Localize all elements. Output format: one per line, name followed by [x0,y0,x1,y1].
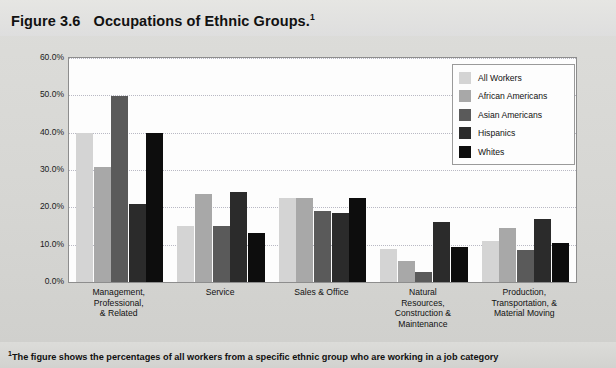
bar [517,250,534,282]
bar [195,194,212,282]
bar [380,249,397,282]
bar [499,228,516,282]
page-title: Figure 3.6Occupations of Ethnic Groups.1 [11,12,315,29]
bar [213,226,230,282]
legend-item: All Workers [459,70,522,85]
x-axis-category-label: Management,Professional,& Related [68,287,169,319]
bar [111,96,128,282]
footnote-band: 1The figure shows the percentages of all… [0,342,616,368]
bar [482,241,499,282]
legend-color-swatch [459,127,471,139]
category-label-line: Sales & Office [271,287,372,298]
bar [230,192,247,282]
y-axis: 0.0%10.0%20.0%30.0%40.0%50.0%60.0% [0,57,64,283]
bar [94,167,111,282]
bar [534,219,551,282]
category-label-line: Resources, [372,298,473,309]
bar [248,233,265,282]
bar [433,222,450,282]
title-superscript: 1 [310,12,315,22]
category-label-line: Natural [372,287,473,298]
x-axis-category-label: Production,Transportation, &Material Mov… [474,287,575,319]
legend-label: Asian Americans [478,110,542,120]
y-axis-tick-label: 50.0% [2,89,64,99]
chart-legend: All WorkersAfrican AmericansAsian Americ… [452,64,575,165]
legend-label: African Americans [478,91,547,101]
category-label-line: Construction & [372,308,473,319]
legend-item: Whites [459,144,504,159]
legend-item: Asian Americans [459,107,542,122]
category-label-line: & Related [68,308,169,319]
bar [296,198,313,282]
category-label-line: Transportation, & [474,298,575,309]
bar-group [170,58,271,282]
x-axis-category-label: Sales & Office [271,287,372,298]
x-axis-category-label: NaturalResources,Construction &Maintenan… [372,287,473,329]
category-label-line: Material Moving [474,308,575,319]
bar [314,211,331,282]
legend-color-swatch [459,72,471,84]
y-axis-tick-label: 0.0% [2,276,64,286]
legend-label: Whites [478,147,504,157]
bar [552,243,569,282]
figure-title: Occupations of Ethnic Groups. [94,13,310,29]
x-axis-category-labels: Management,Professional,& RelatedService… [68,287,577,345]
bar [129,204,146,282]
legend-item: African Americans [459,89,547,104]
x-axis-category-label: Service [169,287,270,298]
y-axis-tick-label: 30.0% [2,164,64,174]
bar [349,198,366,282]
y-axis-tick-label: 60.0% [2,52,64,62]
y-axis-tick-label: 10.0% [2,239,64,249]
y-axis-tick-label: 20.0% [2,201,64,211]
legend-color-swatch [459,90,471,102]
legend-label: Hispanics [478,128,515,138]
footnote-text: The figure shows the percentages of all … [12,352,499,362]
legend-label: All Workers [478,73,522,83]
bar [279,198,296,282]
category-label-line: Maintenance [372,319,473,330]
legend-color-swatch [459,146,471,158]
category-label-line: Management, [68,287,169,298]
figure-footnote: 1The figure shows the percentages of all… [8,350,498,362]
bar [451,247,468,282]
bar [146,133,163,282]
bar [398,261,415,282]
bar-group [69,58,170,282]
bar [76,133,93,282]
category-label-line: Professional, [68,298,169,309]
legend-color-swatch [459,109,471,121]
bar [415,272,432,282]
bar [177,226,194,282]
legend-item: Hispanics [459,126,515,141]
figure-header: Figure 3.6Occupations of Ethnic Groups.1 [0,0,616,36]
bar [332,213,349,282]
category-label-line: Production, [474,287,575,298]
figure-number: Figure 3.6 [11,13,81,29]
y-axis-tick-label: 40.0% [2,127,64,137]
figure-container: Figure 3.6Occupations of Ethnic Groups.1… [0,0,616,368]
bar-group [272,58,373,282]
category-label-line: Service [169,287,270,298]
